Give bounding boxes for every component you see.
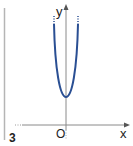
- x-axis-label: x: [120, 127, 127, 140]
- y-axis-arrow-icon: [64, 4, 69, 10]
- origin-label: O: [56, 128, 65, 140]
- figure-number: 3: [9, 132, 16, 144]
- y-axis-label: y: [56, 5, 63, 18]
- graph-canvas: [0, 0, 133, 146]
